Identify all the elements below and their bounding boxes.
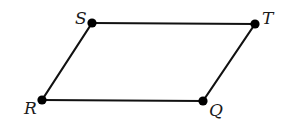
parallelogram-diagram: S T R Q [0,0,286,127]
edge-r-s [42,23,92,100]
edge-q-r [42,100,203,101]
vertex-s-label: S [75,8,87,28]
vertex-q-dot [198,96,207,105]
vertex-q-label: Q [209,100,223,120]
vertex-t-dot [250,19,259,28]
vertex-s-dot [87,18,96,27]
vertex-r-dot [37,95,46,104]
edge-s-t [92,23,255,24]
vertex-t-label: T [262,8,275,28]
edge-t-q [203,24,255,101]
vertex-r-label: R [23,98,37,118]
